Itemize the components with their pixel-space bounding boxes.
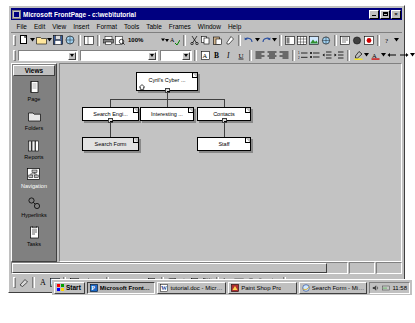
nav-node-label: Interesting ... [151, 111, 183, 118]
bold-icon[interactable]: B [211, 49, 223, 61]
underline-icon[interactable]: U [235, 49, 247, 61]
chevron-down-icon[interactable] [394, 34, 399, 46]
title-bar[interactable]: Microsoft FrontPage - c:\web\tutorial × [11, 8, 402, 20]
nav-node-staff[interactable]: Staff [197, 137, 251, 151]
menu-help[interactable]: Help [224, 22, 244, 32]
svg-text:W: W [161, 285, 167, 291]
modem-icon[interactable] [382, 284, 390, 292]
minimize-button[interactable] [369, 10, 379, 19]
decrease-indent-icon[interactable] [321, 49, 333, 61]
horizontal-scrollbar[interactable] [11, 262, 348, 274]
refresh-icon[interactable] [351, 34, 363, 46]
menu-insert[interactable]: Insert [70, 22, 93, 32]
stop-icon[interactable] [363, 34, 375, 46]
formatting-toolbar: A B I U 12 [11, 48, 402, 62]
sidebar-item-navigation[interactable]: Navigation [12, 164, 56, 192]
spelling-icon[interactable]: A [169, 34, 181, 46]
frontpage-icon: P [90, 284, 98, 292]
toolbar-grip[interactable] [13, 50, 16, 61]
print-icon[interactable] [102, 34, 114, 46]
chevron-down-icon[interactable] [272, 34, 277, 46]
menu-format[interactable]: Format [93, 22, 121, 32]
collapse-toggle[interactable] [165, 88, 170, 93]
taskbar-item-internet-explorer[interactable]: Search Form - Microsoft I... [299, 282, 368, 294]
sidebar-item-page[interactable]: Page [12, 77, 56, 105]
taskbar-item-word[interactable]: W tutorial.doc - Microsoft W... [157, 282, 226, 294]
font-dropdown[interactable] [80, 50, 158, 61]
change-font-icon[interactable]: A [199, 49, 211, 61]
insert-wordart-icon[interactable]: A [37, 276, 49, 288]
style-dropdown[interactable] [18, 50, 78, 61]
forward-arrow-icon[interactable] [398, 49, 410, 61]
start-button[interactable]: Start [54, 282, 85, 294]
volume-icon[interactable] [372, 284, 380, 292]
menu-table[interactable]: Table [143, 22, 166, 32]
increase-indent-icon[interactable] [333, 49, 345, 61]
align-right-icon[interactable] [278, 49, 290, 61]
print-preview-icon[interactable] [114, 34, 126, 46]
nav-node-search-engines[interactable]: Search Engi... [82, 107, 139, 121]
menu-view[interactable]: View [49, 22, 70, 32]
sidebar-item-tasks[interactable]: Tasks [12, 222, 56, 250]
connector [110, 99, 111, 107]
font-size-dropdown[interactable] [160, 50, 192, 61]
close-button[interactable]: × [391, 10, 401, 19]
navigation-pane[interactable]: Cyril's Cyber ... Search Engi... [59, 63, 402, 262]
navigation-canvas[interactable]: Cyril's Cyber ... Search Engi... [60, 64, 401, 261]
save-icon[interactable] [52, 34, 64, 46]
chevron-down-icon[interactable] [410, 49, 415, 61]
cut-icon[interactable] [188, 34, 200, 46]
nav-node-search-form[interactable]: Search Form [82, 137, 139, 151]
insert-picture-icon[interactable] [308, 34, 320, 46]
menu-file[interactable]: File [13, 22, 30, 32]
nav-node-root[interactable]: Cyril's Cyber ... [136, 72, 198, 91]
menu-edit[interactable]: Edit [30, 22, 48, 32]
show-all-icon[interactable] [339, 34, 351, 46]
sidebar-item-hyperlinks[interactable]: Hyperlinks [12, 193, 56, 221]
back-arrow-icon[interactable] [386, 49, 398, 61]
scrollbar-thumb[interactable] [12, 263, 327, 273]
svg-text:B: B [214, 51, 219, 60]
menu-window[interactable]: Window [194, 22, 224, 32]
sidebar-item-folders[interactable]: Folders [12, 106, 56, 134]
italic-icon[interactable]: I [223, 49, 235, 61]
align-left-icon[interactable] [254, 49, 266, 61]
folder-list-icon[interactable] [83, 34, 95, 46]
publish-icon[interactable] [64, 34, 76, 46]
taskbar-item-frontpage[interactable]: P Microsoft FrontPage... [87, 282, 156, 294]
paste-icon[interactable] [212, 34, 224, 46]
menu-tools[interactable]: Tools [121, 22, 143, 32]
redo-icon[interactable] [260, 34, 272, 46]
highlight-color-icon[interactable] [352, 49, 364, 61]
help-icon[interactable]: ? [382, 34, 394, 46]
maximize-button[interactable] [380, 10, 390, 19]
toolbar-separator [194, 50, 197, 61]
nav-node-contacts[interactable]: Contacts [197, 107, 251, 121]
draw-menu-icon[interactable] [18, 276, 30, 288]
taskbar-clock[interactable]: 11:58 [392, 285, 407, 291]
nav-node-interesting[interactable]: Interesting ... [140, 107, 194, 121]
copy-icon[interactable] [200, 34, 212, 46]
hyperlink-icon[interactable] [320, 34, 332, 46]
collapse-toggle[interactable] [222, 118, 227, 123]
chevron-down-icon[interactable] [148, 52, 156, 60]
toolbar-grip[interactable] [13, 35, 16, 46]
numbered-list-icon[interactable]: 12 [297, 49, 309, 61]
open-folder-icon[interactable] [35, 34, 47, 46]
format-painter-icon[interactable] [224, 34, 236, 46]
font-color-icon[interactable]: A [369, 49, 381, 61]
sidebar-item-reports[interactable]: Reports [12, 135, 56, 163]
insert-component-icon[interactable] [284, 34, 296, 46]
toolbar-grip[interactable] [13, 277, 16, 288]
menu-frames[interactable]: Frames [165, 22, 194, 32]
collapse-toggle[interactable] [108, 118, 113, 123]
align-center-icon[interactable] [266, 49, 278, 61]
chevron-down-icon[interactable] [182, 52, 190, 60]
chevron-down-icon[interactable] [68, 52, 76, 60]
insert-table-icon[interactable] [296, 34, 308, 46]
taskbar-item-paintshop[interactable]: Paint Shop Pro [228, 282, 297, 294]
zoom-dropdown[interactable] [145, 35, 169, 46]
new-page-icon[interactable] [18, 34, 30, 46]
bulleted-list-icon[interactable] [309, 49, 321, 61]
undo-icon[interactable] [243, 34, 255, 46]
